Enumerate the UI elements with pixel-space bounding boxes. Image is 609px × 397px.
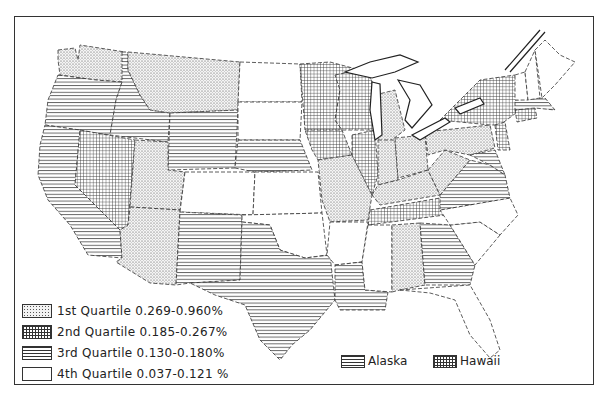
inset-hawaii: Hawaii bbox=[433, 354, 500, 368]
state-nebraska bbox=[235, 140, 312, 172]
state-wisconsin bbox=[335, 70, 375, 130]
blank-pattern-swatch bbox=[22, 367, 52, 381]
map-legend: 1st Quartile 0.269-0.960% 2nd Quartile 0… bbox=[22, 300, 229, 384]
inset-label: Alaska bbox=[368, 354, 407, 368]
state-iowa bbox=[305, 130, 352, 160]
legend-label: 2nd Quartile 0.185-0.267% bbox=[57, 325, 228, 339]
grid-pattern-swatch bbox=[433, 355, 457, 368]
lines-pattern-swatch bbox=[341, 355, 365, 368]
state-arkansas bbox=[327, 222, 368, 265]
legend-item-3rd-quartile: 3rd Quartile 0.130-0.180% bbox=[22, 342, 229, 363]
state-florida bbox=[400, 285, 500, 358]
dots-pattern-swatch bbox=[22, 304, 52, 318]
grid-pattern-swatch bbox=[22, 325, 52, 339]
state-mississippi bbox=[362, 225, 392, 292]
state-wyoming bbox=[168, 110, 238, 170]
state-maine bbox=[535, 40, 575, 98]
state-oregon bbox=[45, 75, 122, 135]
state-indiana bbox=[378, 140, 398, 185]
legend-item-1st-quartile: 1st Quartile 0.269-0.960% bbox=[22, 300, 229, 321]
state-ohio bbox=[395, 135, 428, 178]
lake-huron bbox=[398, 80, 432, 128]
state-new-mexico bbox=[176, 212, 242, 285]
legend-item-2nd-quartile: 2nd Quartile 0.185-0.267% bbox=[22, 321, 229, 342]
state-alabama bbox=[392, 223, 425, 292]
legend-label: 4th Quartile 0.037-0.121 % bbox=[57, 367, 229, 381]
lake-superior bbox=[345, 55, 418, 78]
inset-alaska: Alaska bbox=[341, 354, 407, 368]
legend-item-4th-quartile: 4th Quartile 0.037-0.121 % bbox=[22, 363, 229, 384]
lines-pattern-swatch bbox=[22, 346, 52, 360]
legend-label: 3rd Quartile 0.130-0.180% bbox=[57, 346, 225, 360]
state-south-dakota bbox=[238, 102, 302, 140]
state-colorado bbox=[180, 172, 255, 215]
legend-label: 1st Quartile 0.269-0.960% bbox=[57, 304, 223, 318]
state-connecticut bbox=[515, 108, 537, 122]
state-kansas bbox=[253, 172, 322, 215]
inset-label: Hawaii bbox=[460, 354, 500, 368]
state-new-jersey bbox=[495, 122, 510, 150]
state-north-dakota bbox=[238, 62, 302, 102]
